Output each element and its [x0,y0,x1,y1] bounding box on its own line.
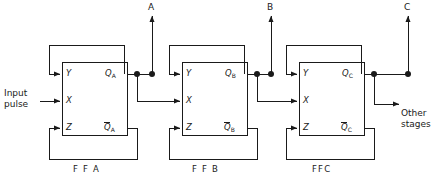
ffa-output-qbar-subscript: A [111,126,115,133]
ffc-input-z-label: Z [303,123,309,133]
ffa-input-x-label: X [66,96,72,106]
ffa-output-q-letter: Q [105,68,112,78]
circuit-diagram: A B C Input pulse Other stages Y X Z QA … [0,0,445,189]
ffc-output-q-letter: Q [342,68,349,78]
ffb-output-q-subscript: B [232,72,236,79]
wire-qb-to-ffc-x [257,74,296,101]
ffb-input-x-label: X [186,96,192,106]
ffc-output-qbar-letter: Q [341,123,348,133]
junction-dot-qa-2 [149,71,155,77]
ffa-output-qbar-letter: Q [104,123,111,133]
wire-qa-to-ffb-x [137,74,179,101]
input-pulse-label-line1: Input [4,88,27,98]
ffa-output-q-label: QA [105,69,116,79]
ff-box-ffb [183,63,248,136]
junction-dot-qc-1 [371,71,377,77]
ffa-input-z-label: Z [66,123,72,133]
ffb-output-qbar-letter: Q [224,123,231,133]
junction-dot-qb-1 [254,71,260,77]
ff-box-ffa [63,63,128,136]
junction-dot-qa-1 [134,71,140,77]
ffc-output-qbar-subscript: C [348,126,352,133]
ffb-output-qbar-label: QB [224,123,235,133]
ffb-output-qbar-subscript: B [231,126,235,133]
output-label-a: A [148,2,154,12]
ffa-input-y-label: Y [66,69,71,79]
output-label-c: C [404,2,410,12]
ff-name-ffb: F F B [192,165,219,175]
ffb-input-y-label: Y [186,69,191,79]
input-pulse-label-line2: pulse [4,99,28,109]
ffb-output-q-label: QB [225,69,236,79]
ff-box-ffc [300,63,365,136]
ffc-output-q-subscript: C [349,72,353,79]
output-label-b: B [267,2,273,12]
ffb-output-q-letter: Q [225,68,232,78]
wire-qc-to-other-stages [374,74,398,104]
junction-dot-qb-2 [268,71,274,77]
ffa-output-qbar-label: QA [104,123,115,133]
ffa-output-q-subscript: A [112,72,116,79]
ffc-input-y-label: Y [303,69,308,79]
ffb-input-z-label: Z [186,123,192,133]
ff-name-ffa: F F A [73,165,100,175]
junction-dot-qc-2 [405,71,411,77]
ffc-output-q-label: QC [342,69,353,79]
ffc-output-qbar-label: QC [341,123,352,133]
ffc-input-x-label: X [303,96,309,106]
ff-name-ffc: FFC [312,165,331,175]
other-stages-label-line1: Other [401,108,427,118]
other-stages-label-line2: stages [401,119,431,129]
